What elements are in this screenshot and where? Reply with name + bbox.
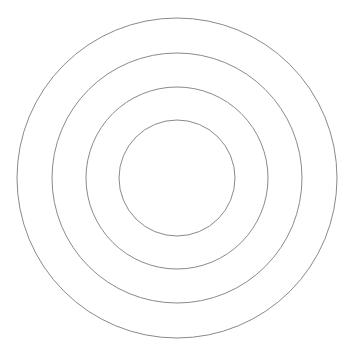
third-ring [86,87,268,269]
concentric-circles-diagram [0,0,355,361]
inner-ring [119,120,235,236]
second-ring [52,53,302,303]
outer-ring [17,18,337,338]
diagram-canvas [0,0,355,361]
